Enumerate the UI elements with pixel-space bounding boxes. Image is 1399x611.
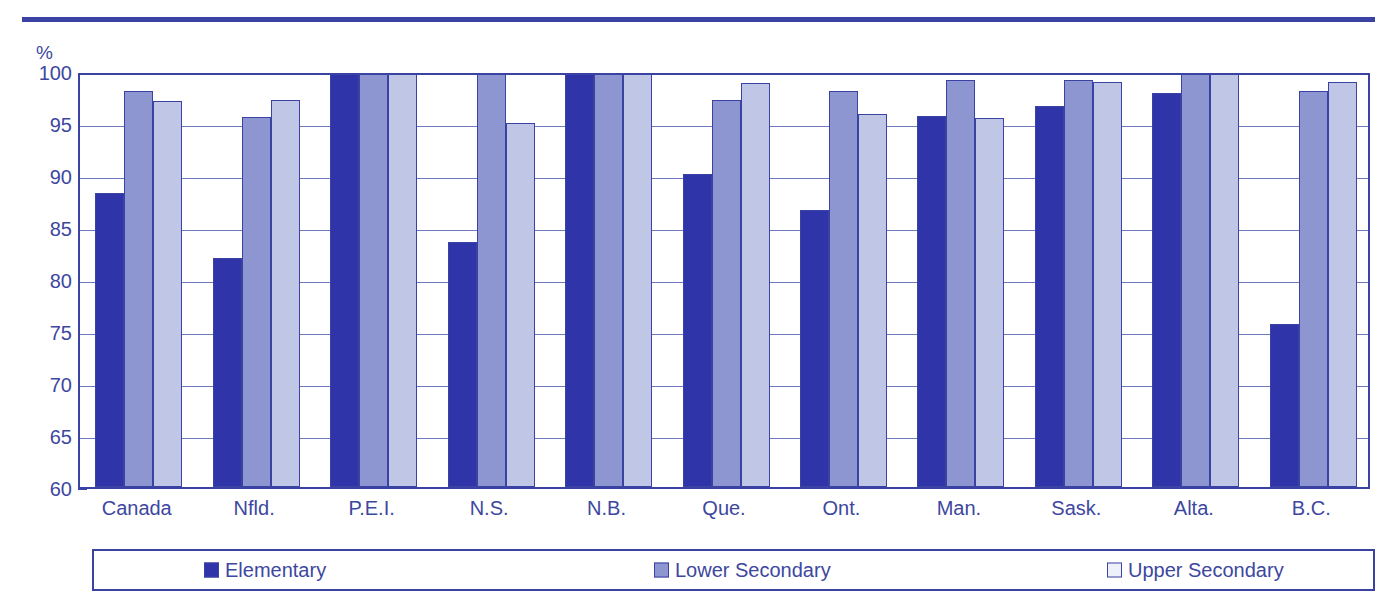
y-axis-tick-label: 80 — [12, 270, 72, 293]
bar — [1328, 82, 1357, 487]
bar — [1035, 106, 1064, 487]
x-axis-tick-label: Ont. — [823, 497, 861, 520]
bar — [477, 73, 506, 487]
bar — [506, 123, 535, 487]
legend-label: Lower Secondary — [675, 559, 831, 582]
bar — [829, 91, 858, 487]
bar — [594, 73, 623, 487]
bar — [741, 83, 770, 487]
bar-chart-figure: % 6065707580859095100 CanadaNfld.P.E.I.N… — [0, 0, 1399, 611]
bar — [153, 101, 182, 487]
bar — [1270, 324, 1299, 487]
legend-swatch-icon — [1107, 563, 1122, 578]
bar — [1181, 74, 1210, 487]
legend-label: Upper Secondary — [1128, 559, 1284, 582]
bar — [623, 73, 652, 487]
x-axis-tick-label: Sask. — [1051, 497, 1101, 520]
y-axis-tick-label: 70 — [12, 374, 72, 397]
bar — [917, 116, 946, 487]
bar — [800, 210, 829, 487]
bar — [858, 114, 887, 487]
x-axis-tick-label: Nfld. — [234, 497, 275, 520]
bar — [124, 91, 153, 487]
x-axis-tick-label: B.C. — [1292, 497, 1331, 520]
bar — [388, 73, 417, 487]
bar — [1210, 73, 1239, 487]
bar — [712, 100, 741, 487]
y-axis-tick-label: 65 — [12, 426, 72, 449]
top-rule-divider — [22, 17, 1375, 22]
legend-label: Elementary — [225, 559, 326, 582]
y-axis-tick-label: 60 — [12, 478, 72, 501]
x-axis-tick-label: P.E.I. — [348, 497, 394, 520]
legend-swatch-icon — [204, 563, 219, 578]
legend-item[interactable]: Upper Secondary — [1107, 559, 1284, 582]
bar — [213, 258, 242, 487]
bar — [1152, 93, 1181, 487]
bar — [271, 100, 300, 487]
x-axis-tick-label: Man. — [937, 497, 981, 520]
legend-swatch-icon — [654, 563, 669, 578]
plot-area — [78, 73, 1370, 489]
x-axis-tick-label: Canada — [102, 497, 172, 520]
bar — [975, 118, 1004, 487]
bar — [242, 117, 271, 487]
x-axis-tick-label: N.B. — [587, 497, 626, 520]
x-axis-tick-label: N.S. — [470, 497, 509, 520]
bar — [359, 73, 388, 487]
x-axis-tick-label: Alta. — [1174, 497, 1214, 520]
bar — [1093, 82, 1122, 487]
bar — [683, 174, 712, 487]
x-axis-tick-label: Que. — [702, 497, 745, 520]
bar — [1299, 91, 1328, 487]
y-axis-tick-label: 85 — [12, 218, 72, 241]
bar — [946, 80, 975, 487]
bar — [95, 193, 124, 487]
legend-item[interactable]: Elementary — [204, 559, 326, 582]
bar — [565, 73, 594, 487]
y-axis-tick-label: 75 — [12, 322, 72, 345]
y-axis-tick-label: 95 — [12, 114, 72, 137]
y-axis-tick-label: 100 — [12, 62, 72, 85]
legend: ElementaryLower SecondaryUpper Secondary — [92, 549, 1375, 591]
bar — [330, 73, 359, 487]
legend-item[interactable]: Lower Secondary — [654, 559, 831, 582]
bar — [1064, 80, 1093, 487]
bar — [448, 242, 477, 487]
y-axis-tick-label: 90 — [12, 166, 72, 189]
